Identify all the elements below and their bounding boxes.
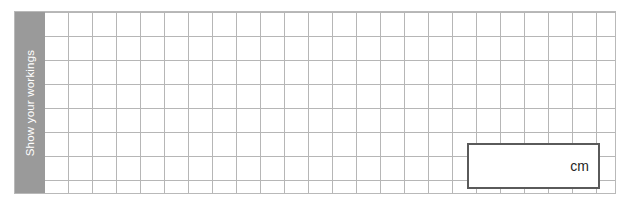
show-your-workings-label: Show your workings xyxy=(24,49,36,156)
answer-unit-label: cm xyxy=(570,159,598,173)
worksheet: Show your workings cm xyxy=(0,0,630,208)
answer-box[interactable]: cm xyxy=(467,143,600,189)
show-your-workings-band: Show your workings xyxy=(15,12,45,193)
working-area: Show your workings cm xyxy=(14,11,616,194)
